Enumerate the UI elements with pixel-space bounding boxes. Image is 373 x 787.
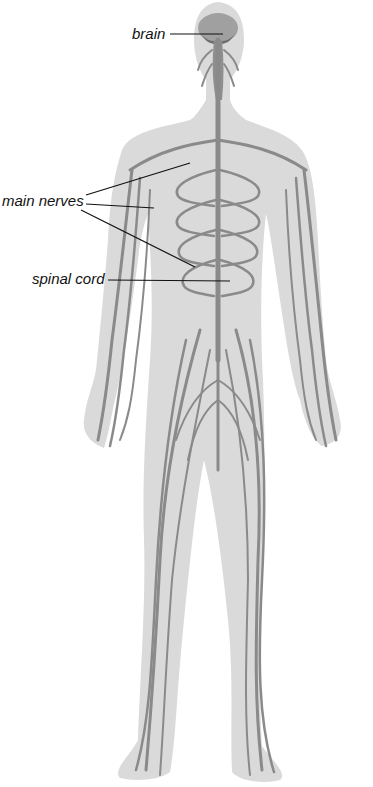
main-nerves-label: main nerves (2, 193, 84, 208)
body-silhouette (84, 2, 341, 782)
nervous-system-figure (0, 0, 373, 787)
brain-label: brain (132, 26, 165, 41)
spinal-cord-label: spinal cord (32, 271, 105, 286)
